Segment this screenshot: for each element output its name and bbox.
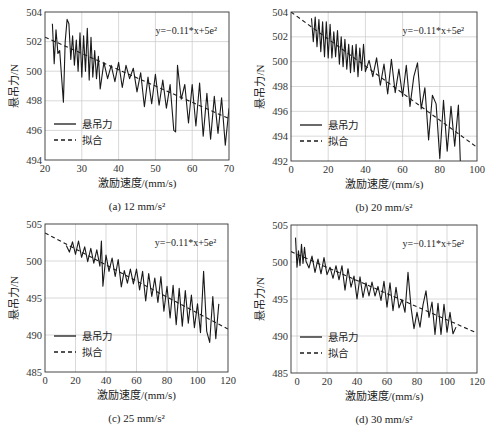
- x-tick-label: 100: [439, 376, 455, 387]
- y-tick-label: 495: [272, 294, 288, 305]
- legend: 悬吊力拟合: [54, 118, 112, 146]
- x-tick-label: 40: [113, 163, 124, 174]
- y-tick-label: 504: [26, 7, 43, 18]
- fit-line: [45, 37, 229, 118]
- subplot-caption: (d) 30 mm/s²: [355, 413, 413, 426]
- y-tick-label: 494: [26, 155, 43, 166]
- fit-equation: y=−0.11*x+5e²: [155, 25, 216, 36]
- x-tick-label: 70: [224, 163, 235, 174]
- y-axis-label: 悬吊力/N: [254, 64, 266, 108]
- y-tick-label: 485: [272, 368, 288, 379]
- y-tick-label: 496: [26, 125, 42, 136]
- x-tick-label: 20: [70, 375, 81, 386]
- y-tick-label: 492: [272, 156, 288, 167]
- x-tick-label: 60: [382, 376, 393, 387]
- svg-text:悬吊力: 悬吊力: [328, 119, 358, 131]
- subplot-c: 020406080100120485490495500505激励速度/(mm/s…: [8, 219, 236, 426]
- y-tick-label: 490: [272, 331, 288, 342]
- x-tick-label: 60: [397, 164, 408, 175]
- subplot-d: 020406080100120485490495500505激励速度/(mm/s…: [254, 220, 485, 427]
- svg-text:拟合: 拟合: [328, 135, 349, 147]
- y-tick-label: 502: [26, 36, 42, 47]
- y-tick-label: 500: [272, 56, 288, 67]
- y-tick-label: 500: [26, 66, 42, 77]
- x-axis-label: 激励速度/(mm/s): [98, 176, 177, 190]
- subplot-b: 020406080100492494496498500502504激励速度/(m…: [254, 7, 485, 215]
- x-tick-label: 0: [42, 375, 47, 386]
- y-tick-label: 502: [272, 31, 288, 42]
- x-tick-label: 50: [150, 163, 161, 174]
- x-tick-label: 60: [187, 163, 198, 174]
- x-tick-label: 40: [352, 376, 363, 387]
- x-tick-label: 120: [220, 375, 236, 386]
- x-tick-label: 40: [101, 375, 112, 386]
- x-tick-label: 80: [162, 375, 173, 386]
- figure-canvas: 203040506070494496498500502504激励速度/(mm/s…: [0, 0, 494, 434]
- y-tick-label: 504: [272, 7, 289, 18]
- y-tick-label: 505: [272, 220, 288, 231]
- subplot-a: 203040506070494496498500502504激励速度/(mm/s…: [8, 7, 234, 214]
- x-tick-label: 40: [360, 164, 371, 175]
- y-tick-label: 498: [26, 95, 42, 106]
- svg-text:悬吊力: 悬吊力: [82, 330, 112, 342]
- x-tick-label: 80: [435, 164, 446, 175]
- x-tick-label: 0: [294, 376, 299, 387]
- fit-equation: y=−0.11*x+5e²: [403, 25, 464, 36]
- fit-equation: y=−0.11*x+5e²: [155, 237, 216, 248]
- x-tick-label: 60: [131, 375, 142, 386]
- subplot-caption: (c) 25 mm/s²: [108, 412, 165, 425]
- x-axis-label: 激励速度/(mm/s): [345, 389, 424, 403]
- y-tick-label: 490: [26, 330, 42, 341]
- subplot-caption: (a) 12 mm/s²: [109, 200, 166, 213]
- y-tick-label: 498: [272, 81, 288, 92]
- svg-text:悬吊力: 悬吊力: [82, 118, 112, 130]
- x-axis-label: 激励速度/(mm/s): [345, 177, 424, 191]
- legend: 悬吊力拟合: [300, 119, 358, 147]
- x-tick-label: 20: [323, 164, 334, 175]
- y-tick-label: 500: [26, 256, 42, 267]
- x-tick-label: 100: [469, 164, 485, 175]
- x-axis-label: 激励速度/(mm/s): [97, 388, 176, 402]
- y-axis-label: 悬吊力/N: [254, 277, 266, 321]
- fit-equation: y=−0.11*x+5e²: [403, 238, 464, 249]
- x-tick-label: 20: [322, 376, 333, 387]
- y-tick-label: 485: [26, 367, 42, 378]
- force-line: [296, 238, 457, 335]
- svg-text:悬吊力: 悬吊力: [328, 331, 358, 343]
- y-tick-label: 505: [26, 219, 42, 230]
- x-tick-label: 120: [469, 376, 485, 387]
- y-tick-label: 494: [272, 131, 289, 142]
- x-tick-label: 30: [77, 163, 88, 174]
- y-tick-label: 500: [272, 257, 288, 268]
- svg-text:拟合: 拟合: [82, 134, 103, 146]
- force-line: [52, 19, 229, 145]
- svg-text:拟合: 拟合: [328, 347, 349, 359]
- legend: 悬吊力拟合: [300, 331, 358, 359]
- y-tick-label: 496: [272, 106, 288, 117]
- x-tick-label: 80: [412, 376, 423, 387]
- x-tick-label: 100: [190, 375, 206, 386]
- x-tick-label: 0: [288, 164, 293, 175]
- y-axis-label: 悬吊力/N: [8, 64, 20, 108]
- y-tick-label: 495: [26, 293, 42, 304]
- y-axis-label: 悬吊力/N: [8, 276, 20, 320]
- subplot-caption: (b) 20 mm/s²: [355, 201, 413, 214]
- legend: 悬吊力拟合: [54, 330, 112, 358]
- svg-text:拟合: 拟合: [82, 346, 103, 358]
